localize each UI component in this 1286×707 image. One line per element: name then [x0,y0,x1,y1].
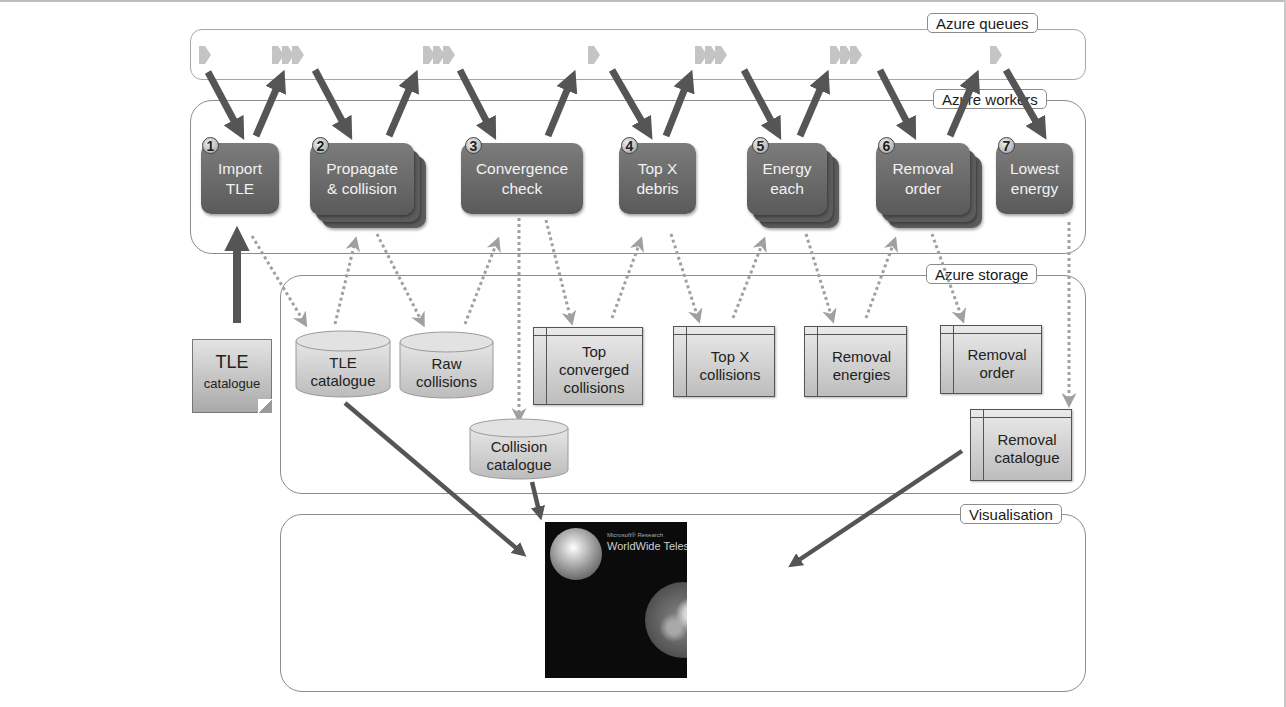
table-label: Removalenergies [819,335,904,396]
blob-collision-catalogue: Collisioncatalogue [469,418,569,480]
step-badge-6: 6 [878,137,895,154]
worker-convergence-check: Convergencecheck [461,143,583,214]
step-badge-4: 4 [621,137,638,154]
worker-label: Lowestenergy [1010,159,1059,199]
document-subtitle: catalogue [193,376,271,391]
document-fold [258,399,272,413]
azure-storage-label: Azure storage [926,264,1037,284]
worker-label: Propagate& collision [326,159,398,199]
step-badge-2: 2 [312,137,329,154]
azure-queues-label: Azure queues [927,13,1038,33]
worker-label: ImportTLE [218,159,262,199]
azure-workers-label: Azure workers [933,89,1047,109]
worker-removal-order: Removalorder [876,143,970,215]
table-label: Topconvergedcollisions [548,336,640,404]
blob-label: Rawcollisions [399,355,494,391]
worker-label: Convergencecheck [476,159,568,199]
step-badge-5: 5 [752,137,769,154]
worldwide-telescope-screenshot: Microsoft® Research WorldWide Telescope [545,522,687,678]
table-label: Top Xcollisions [688,335,772,396]
wwt-logo-icon [550,528,602,580]
blob-tle-catalogue: TLEcatalogue [295,330,391,398]
step-badge-1: 1 [202,137,219,154]
blob-label: TLEcatalogue [295,354,391,390]
blob-raw-collisions: Rawcollisions [399,331,494,399]
blob-label: Collisioncatalogue [469,438,569,474]
table-label: Removalorder [955,334,1039,393]
worker-label: Removalorder [892,159,953,199]
document-title: TLE [193,352,271,373]
table-top-x-collisions: Top Xcollisions [673,326,775,397]
table-removal-energies: Removalenergies [804,326,907,397]
worker-propagate-collision: Propagate& collision [310,143,414,215]
worker-label: Energyeach [762,159,811,199]
table-label: Removalcatalogue [985,418,1069,480]
worker-label: Top Xdebris [636,159,678,199]
top-border [0,0,1286,2]
earth-globe-icon [645,582,687,658]
table-top-converged-collisions: Topconvergedcollisions [533,327,643,405]
table-removal-order: Removalorder [940,325,1042,394]
step-badge-7: 7 [998,137,1015,154]
visualisation-label: Visualisation [960,504,1062,524]
azure-queues-region [190,29,1086,80]
table-removal-catalogue: Removalcatalogue [970,409,1072,481]
step-badge-3: 3 [465,137,482,154]
wwt-brand: Microsoft® Research [607,532,663,538]
wwt-title: WorldWide Telescope [607,540,687,552]
